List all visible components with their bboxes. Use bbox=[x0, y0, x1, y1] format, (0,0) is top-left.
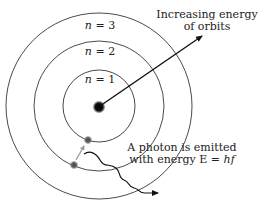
orbit-label-n3: n = 3 bbox=[85, 20, 115, 32]
electron-n1 bbox=[84, 136, 93, 145]
orbit-label-eq: = 3 bbox=[92, 19, 115, 32]
nucleus bbox=[93, 101, 106, 114]
bohr-model-diagram: n = 3 n = 2 n = 1 Increasing energy of o… bbox=[0, 0, 265, 204]
photon-energy-formula: hf bbox=[224, 153, 235, 166]
photon-energy-prefix: with energy E = bbox=[129, 153, 223, 166]
photon-annotation-line2: with energy E = hf bbox=[122, 154, 242, 166]
orbit-label-eq: = 1 bbox=[92, 73, 115, 86]
orbit-label-n2: n = 2 bbox=[85, 46, 115, 58]
orbit-label-n1: n = 1 bbox=[85, 74, 115, 86]
electron-transition-arrow bbox=[76, 146, 84, 160]
photon-annotation: A photon is emitted with energy E = hf bbox=[122, 142, 242, 166]
energy-annotation: Increasing energy of orbits bbox=[155, 9, 259, 33]
energy-annotation-line2: of orbits bbox=[155, 21, 259, 33]
electron-n2 bbox=[70, 161, 79, 170]
increasing-energy-arrow bbox=[100, 36, 202, 106]
orbit-label-eq: = 2 bbox=[92, 45, 115, 58]
